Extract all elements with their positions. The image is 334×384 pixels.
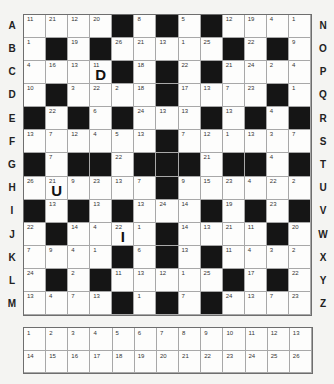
key-cell[interactable]: 11 xyxy=(246,328,268,351)
grid-cell[interactable]: 21 xyxy=(223,223,245,246)
grid-cell[interactable]: 2 xyxy=(289,177,311,200)
grid-cell[interactable]: 11 xyxy=(112,269,134,292)
grid-cell[interactable]: 19 xyxy=(223,200,245,223)
grid-cell[interactable]: 11 xyxy=(245,223,267,246)
grid-cell[interactable]: 22 xyxy=(267,177,289,200)
grid-cell[interactable]: 3 xyxy=(267,246,289,269)
grid-cell[interactable]: 11 xyxy=(24,15,46,38)
grid-cell[interactable]: 23 xyxy=(267,200,289,223)
grid-cell[interactable]: 22 xyxy=(245,38,267,61)
grid-cell[interactable]: 13 xyxy=(179,107,201,130)
grid-cell[interactable]: 15 xyxy=(201,177,223,200)
grid-cell[interactable]: 12 xyxy=(156,269,178,292)
key-cell[interactable]: 1 xyxy=(24,328,46,351)
key-cell[interactable]: 7 xyxy=(157,328,179,351)
grid-cell[interactable]: 3 xyxy=(68,84,90,107)
key-cell[interactable]: 13 xyxy=(290,328,312,351)
grid-cell[interactable]: 7 xyxy=(267,292,289,315)
grid-cell[interactable]: 24 xyxy=(223,292,245,315)
key-cell[interactable]: 4 xyxy=(90,328,112,351)
grid-cell[interactable]: 9 xyxy=(289,38,311,61)
grid-cell[interactable]: 1 xyxy=(179,269,201,292)
grid-cell[interactable]: 8 xyxy=(134,15,156,38)
grid-cell[interactable]: 17 xyxy=(245,269,267,292)
grid-cell[interactable]: 13 xyxy=(223,107,245,130)
grid-cell[interactable]: 13 xyxy=(179,246,201,269)
key-cell[interactable]: 24 xyxy=(246,351,268,374)
grid-cell[interactable]: 4 xyxy=(267,15,289,38)
grid-cell[interactable]: 4 xyxy=(68,246,90,269)
grid-cell[interactable]: 13 xyxy=(245,130,267,153)
grid-cell[interactable]: 22 xyxy=(24,223,46,246)
grid-cell[interactable]: 4 xyxy=(245,177,267,200)
grid-cell[interactable]: 13 xyxy=(24,292,46,315)
grid-cell[interactable]: 6 xyxy=(134,246,156,269)
grid-cell[interactable]: 22 xyxy=(179,61,201,84)
grid-cell[interactable]: 4 xyxy=(46,292,68,315)
grid-cell[interactable]: 4 xyxy=(267,153,289,176)
grid-cell[interactable]: 22 xyxy=(46,107,68,130)
grid-cell[interactable]: 13 xyxy=(201,223,223,246)
grid-cell[interactable]: 1 xyxy=(289,84,311,107)
grid-cell[interactable]: 13 xyxy=(156,38,178,61)
grid-cell[interactable]: 9 xyxy=(46,246,68,269)
grid-cell[interactable]: 1 xyxy=(134,292,156,315)
grid-cell[interactable]: 13 xyxy=(112,177,134,200)
grid-cell[interactable]: 13 xyxy=(68,61,90,84)
key-cell[interactable]: 15 xyxy=(46,351,68,374)
grid-cell[interactable]: 24 xyxy=(24,269,46,292)
grid-cell[interactable]: 22I xyxy=(112,223,134,246)
grid-cell[interactable]: 24 xyxy=(245,61,267,84)
grid-cell[interactable]: 13 xyxy=(24,130,46,153)
grid-cell[interactable]: 13 xyxy=(245,292,267,315)
grid-cell[interactable]: 7 xyxy=(223,84,245,107)
key-cell[interactable]: 26 xyxy=(290,351,312,374)
key-cell[interactable]: 16 xyxy=(68,351,90,374)
grid-cell[interactable]: 21 xyxy=(201,153,223,176)
grid-cell[interactable]: 4 xyxy=(90,130,112,153)
grid-cell[interactable]: 18 xyxy=(134,61,156,84)
grid-cell[interactable]: 5 xyxy=(112,130,134,153)
key-cell[interactable]: 6 xyxy=(135,328,157,351)
key-cell[interactable]: 12 xyxy=(268,328,290,351)
key-cell[interactable]: 18 xyxy=(113,351,135,374)
grid-cell[interactable]: 20 xyxy=(90,15,112,38)
key-cell[interactable]: 3 xyxy=(68,328,90,351)
grid-cell[interactable]: 1 xyxy=(223,130,245,153)
key-cell[interactable]: 17 xyxy=(90,351,112,374)
grid-cell[interactable]: 14 xyxy=(179,223,201,246)
grid-cell[interactable]: 2 xyxy=(68,269,90,292)
grid-cell[interactable]: 5 xyxy=(179,15,201,38)
grid-cell[interactable]: 22 xyxy=(90,84,112,107)
grid-cell[interactable]: 2 xyxy=(112,84,134,107)
grid-cell[interactable]: 21U xyxy=(46,177,68,200)
grid-cell[interactable]: 13 xyxy=(156,107,178,130)
grid-cell[interactable]: 7 xyxy=(134,177,156,200)
grid-cell[interactable]: 24 xyxy=(156,200,178,223)
key-cell[interactable]: 2 xyxy=(46,328,68,351)
grid-cell[interactable]: 13 xyxy=(46,200,68,223)
grid-cell[interactable]: 17 xyxy=(179,84,201,107)
grid-cell[interactable]: 12 xyxy=(68,15,90,38)
grid-cell[interactable]: 23 xyxy=(245,84,267,107)
grid-cell[interactable]: 7 xyxy=(46,153,68,176)
grid-cell[interactable]: 12 xyxy=(68,130,90,153)
grid-cell[interactable]: 7 xyxy=(289,130,311,153)
grid-cell[interactable]: 7 xyxy=(68,292,90,315)
grid-cell[interactable]: 4 xyxy=(90,223,112,246)
key-cell[interactable]: 8 xyxy=(179,328,201,351)
grid-cell[interactable]: 9 xyxy=(179,177,201,200)
grid-cell[interactable]: 1 xyxy=(179,38,201,61)
grid-cell[interactable]: 22 xyxy=(112,153,134,176)
grid-cell[interactable]: 7 xyxy=(46,130,68,153)
grid-cell[interactable]: 4 xyxy=(289,61,311,84)
key-cell[interactable]: 14 xyxy=(24,351,46,374)
grid-cell[interactable]: 11D xyxy=(90,61,112,84)
key-cell[interactable]: 23 xyxy=(223,351,245,374)
key-cell[interactable]: 10 xyxy=(223,328,245,351)
grid-cell[interactable]: 11 xyxy=(223,246,245,269)
grid-cell[interactable]: 14 xyxy=(179,200,201,223)
key-cell[interactable]: 21 xyxy=(179,351,201,374)
grid-cell[interactable]: 4 xyxy=(267,107,289,130)
grid-cell[interactable]: 7 xyxy=(179,292,201,315)
